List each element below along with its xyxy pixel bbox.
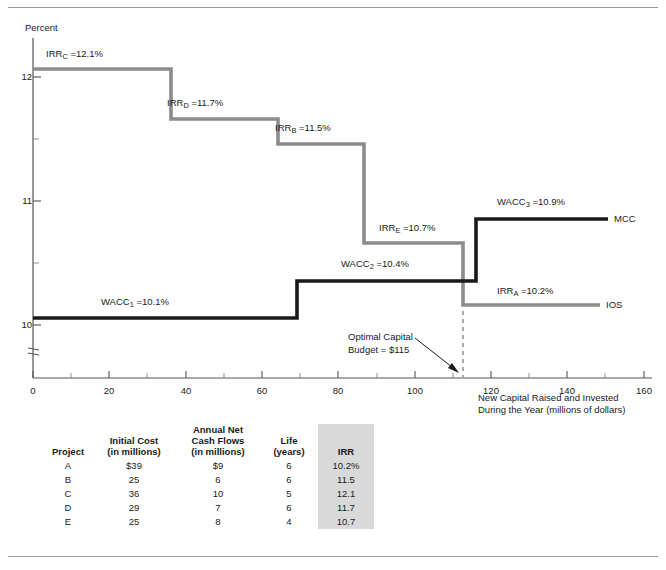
x-tick-label-80: 80 xyxy=(328,385,348,396)
label-irr-b: IRRB =11.5% xyxy=(275,122,331,133)
label-wacc-2-sub: 2 xyxy=(370,262,374,271)
label-wacc-3-sub: 3 xyxy=(526,200,530,209)
cell-life: 4 xyxy=(260,515,318,529)
x-tick-label-40: 40 xyxy=(176,385,196,396)
header-project-label: Project xyxy=(52,446,84,457)
optimal-budget-annotation-line1: Optimal Capital xyxy=(348,330,413,343)
cell-cash_flows: 8 xyxy=(176,515,260,529)
cell-life: 6 xyxy=(260,459,318,473)
label-wacc-1-base: WACC xyxy=(101,296,130,307)
optimal-budget-arrow xyxy=(415,338,459,373)
cell-irr: 11.7 xyxy=(318,501,374,515)
header-cash-flows-line2: Cash Flows xyxy=(176,435,260,446)
x-axis-caption-line2: During the Year (millions of dollars) xyxy=(478,404,625,415)
cell-cash_flows: 7 xyxy=(176,501,260,515)
label-irr-b-sub: B xyxy=(291,126,296,135)
ios-curve xyxy=(33,69,600,305)
series-label-ios: IOS xyxy=(606,299,622,310)
label-irr-c-base: IRR xyxy=(46,48,62,59)
series-label-mcc: MCC xyxy=(614,213,636,224)
table-body: A$39$9610.2%B256611.5C3610512.1D297611.7… xyxy=(44,459,374,529)
label-wacc-3-base: WACC xyxy=(497,196,526,207)
header-irr: IRR xyxy=(318,424,374,459)
cell-project: B xyxy=(44,473,92,487)
label-irr-e: IRRE =10.7% xyxy=(379,222,436,233)
cell-project: D xyxy=(44,501,92,515)
table-row: E258410.7 xyxy=(44,515,374,529)
cell-initial_cost: $39 xyxy=(92,459,176,473)
cell-initial_cost: 36 xyxy=(92,487,176,501)
label-irr-a-base: IRR xyxy=(497,285,513,296)
label-irr-d-sub: D xyxy=(183,101,188,110)
cell-cash_flows: 6 xyxy=(176,473,260,487)
table-header-row: Project Initial Cost (in millions) Annua… xyxy=(44,424,374,459)
x-major-ticks xyxy=(33,371,644,378)
ios-mcc-chart xyxy=(0,0,666,420)
header-initial-cost-line2: (in millions) xyxy=(92,446,176,457)
label-irr-c-sub: C xyxy=(62,52,67,61)
label-wacc-3-value: =10.9% xyxy=(530,196,565,207)
label-irr-d: IRRD =11.7% xyxy=(167,97,223,108)
label-irr-d-base: IRR xyxy=(167,97,183,108)
cell-irr: 10.2% xyxy=(318,459,374,473)
cell-project: E xyxy=(44,515,92,529)
x-tick-label-60: 60 xyxy=(252,385,272,396)
label-irr-a: IRRA =10.2% xyxy=(497,285,554,296)
table-row: D297611.7 xyxy=(44,501,374,515)
cell-life: 5 xyxy=(260,487,318,501)
label-irr-b-base: IRR xyxy=(275,122,291,133)
header-initial-cost-line1: Initial Cost xyxy=(92,435,176,446)
x-tick-label-20: 20 xyxy=(99,385,119,396)
label-irr-a-value: =10.2% xyxy=(518,285,553,296)
cell-irr: 11.5 xyxy=(318,473,374,487)
optimal-budget-annotation-line2: Budget = $115 xyxy=(348,343,409,356)
x-tick-label-140: 140 xyxy=(557,385,577,396)
table-row: B256611.5 xyxy=(44,473,374,487)
label-irr-e-base: IRR xyxy=(379,222,395,233)
label-wacc-1-sub: 1 xyxy=(130,300,134,309)
y-tick-label-11: 11 xyxy=(12,195,32,206)
table-row: A$39$9610.2% xyxy=(44,459,374,473)
label-wacc-1: WACC1 =10.1% xyxy=(101,296,169,307)
x-tick-label-0: 0 xyxy=(23,385,43,396)
header-project: Project xyxy=(44,424,92,459)
y-tick-label-12: 12 xyxy=(12,71,32,82)
label-irr-a-sub: A xyxy=(513,289,518,298)
cell-initial_cost: 29 xyxy=(92,501,176,515)
x-tick-label-120: 120 xyxy=(481,385,501,396)
label-irr-e-sub: E xyxy=(395,226,400,235)
label-irr-d-value: =11.7% xyxy=(189,97,223,108)
x-tick-label-160: 160 xyxy=(634,385,654,396)
cell-initial_cost: 25 xyxy=(92,515,176,529)
header-irr-label: IRR xyxy=(338,446,354,457)
cell-irr: 12.1 xyxy=(318,487,374,501)
bottom-divider-rule xyxy=(8,556,658,557)
cell-cash_flows: 10 xyxy=(176,487,260,501)
label-wacc-2-value: =10.4% xyxy=(374,258,409,269)
y-tick-label-10: 10 xyxy=(12,319,32,330)
header-life-line2: (years) xyxy=(260,446,318,457)
cell-cash_flows: $9 xyxy=(176,459,260,473)
label-wacc-3: WACC3 =10.9% xyxy=(497,196,565,207)
label-irr-b-value: =11.5% xyxy=(296,122,330,133)
header-initial-cost: Initial Cost (in millions) xyxy=(92,424,176,459)
header-cash-flows: Annual Net Cash Flows (in millions) xyxy=(176,424,260,459)
label-wacc-2: WACC2 =10.4% xyxy=(341,258,409,269)
table-row: C3610512.1 xyxy=(44,487,374,501)
label-irr-e-value: =10.7% xyxy=(400,222,435,233)
cell-life: 6 xyxy=(260,473,318,487)
label-wacc-1-value: =10.1% xyxy=(134,296,169,307)
cell-project: A xyxy=(44,459,92,473)
label-irr-c: IRRC =12.1% xyxy=(46,48,103,59)
x-tick-label-100: 100 xyxy=(405,385,425,396)
project-data-table: Project Initial Cost (in millions) Annua… xyxy=(44,424,374,529)
header-life-line1: Life xyxy=(260,435,318,446)
label-irr-c-value: =12.1% xyxy=(68,48,103,59)
header-cash-flows-line1: Annual Net xyxy=(176,424,260,435)
cell-initial_cost: 25 xyxy=(92,473,176,487)
header-cash-flows-line3: (in millions) xyxy=(176,446,260,457)
cell-irr: 10.7 xyxy=(318,515,374,529)
cell-life: 6 xyxy=(260,501,318,515)
y-axis-title: Percent xyxy=(25,22,58,33)
cell-project: C xyxy=(44,487,92,501)
